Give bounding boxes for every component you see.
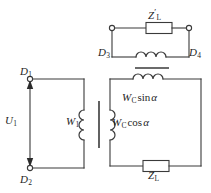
- label-impedance-zl-prime: Z′L: [148, 8, 161, 22]
- label-source-voltage-u1: U1: [5, 115, 17, 127]
- label-terminal-d3: D3: [98, 47, 110, 59]
- terminal-d3-node: [109, 25, 114, 30]
- upper-secondary-coil: [136, 52, 166, 57]
- label-terminal-d4: D4: [189, 47, 201, 59]
- label-primary-winding-w1: W1: [66, 116, 79, 128]
- secondary-coil-wc-sin-alpha: [133, 74, 163, 79]
- label-wc-cos-alpha: WCcosα: [112, 117, 149, 129]
- terminal-d4-node: [186, 25, 191, 30]
- label-terminal-d1: D1: [20, 66, 32, 78]
- circuit-diagram-figure: D1 D2 U1 W1 D3 D4 Z′L ZL WCsinα WCcosα: [0, 0, 211, 193]
- terminal-d2-node: [27, 165, 32, 170]
- label-wc-sin-alpha: WCsinα: [122, 92, 157, 104]
- left-circuit-group: [27, 76, 99, 170]
- label-terminal-d2: D2: [20, 174, 32, 186]
- circuit-diagram-canvas: [0, 0, 211, 193]
- top-circuit-group: [109, 23, 191, 69]
- primary-winding-w1-coil: [79, 110, 84, 140]
- impedance-zl-prime-box: [146, 23, 172, 34]
- label-load-impedance-zl: ZL: [148, 170, 159, 182]
